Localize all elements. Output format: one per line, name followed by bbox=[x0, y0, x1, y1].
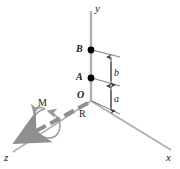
figure-canvas: y x z B A O b a M R bbox=[0, 0, 180, 169]
resultant-vector-R bbox=[16, 103, 88, 142]
coordinate-diagram bbox=[0, 0, 180, 169]
dimension-label-b: b bbox=[114, 68, 119, 78]
axis-label-z: z bbox=[4, 152, 8, 163]
point-marker-B bbox=[88, 47, 95, 54]
point-label-A: A bbox=[76, 72, 83, 82]
axis-label-x: x bbox=[166, 152, 171, 163]
point-label-O: O bbox=[77, 90, 84, 100]
axis-label-y: y bbox=[95, 3, 100, 14]
x-axis-line bbox=[91, 101, 171, 150]
moment-arrow-M bbox=[34, 108, 60, 138]
point-marker-A bbox=[88, 75, 95, 82]
witness-line-b-bottom bbox=[92, 78, 120, 86]
point-label-B: B bbox=[76, 44, 83, 54]
dimension-label-a: a bbox=[114, 94, 119, 104]
vector-label-R: R bbox=[79, 109, 86, 119]
vector-label-M: M bbox=[38, 98, 47, 108]
vector-R-shaft bbox=[16, 103, 88, 142]
witness-line-b-top bbox=[92, 50, 120, 57]
